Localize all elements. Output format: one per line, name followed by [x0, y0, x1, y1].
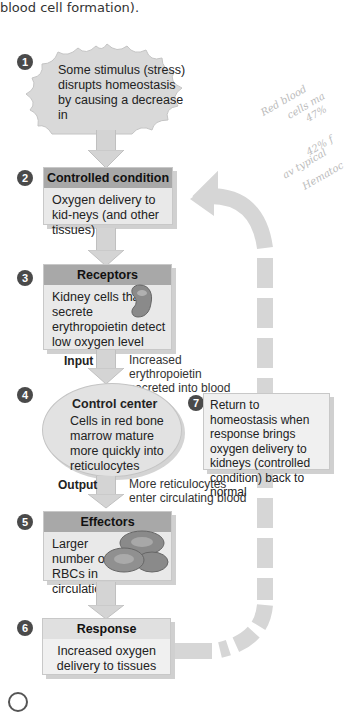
controlled-condition-title: Controlled condition	[44, 168, 172, 188]
receptors-title: Receptors	[44, 265, 171, 285]
response-title: Response	[43, 619, 170, 639]
arrow-down	[96, 582, 116, 606]
output-description: More reticulocytes enter circulating blo…	[129, 477, 249, 505]
response-text: Increased oxygen delivery to tissues	[43, 639, 170, 679]
input-arrow	[96, 350, 116, 370]
step-6-badge: 6	[17, 620, 33, 636]
return-homeostasis-box: Return to homeostasis when response brin…	[203, 393, 330, 470]
next-badge-partial	[8, 692, 28, 712]
kidney-icon	[128, 283, 154, 319]
control-center-title: Control center	[72, 397, 157, 411]
arrow-down	[96, 228, 116, 250]
arrow-down	[96, 130, 116, 150]
output-label: Output	[58, 478, 97, 492]
step-7-badge: 7	[188, 395, 204, 411]
arrow-head	[88, 494, 124, 510]
step-5-badge: 5	[17, 514, 33, 530]
input-label: Input	[64, 354, 93, 368]
controlled-condition-box: Controlled condition Oxygen delivery to …	[43, 167, 173, 225]
output-arrow	[96, 476, 116, 496]
response-box: Response Increased oxygen delivery to ti…	[42, 618, 171, 675]
step-2-badge: 2	[17, 170, 33, 186]
step-1-text: Some stimulus (stress) disrupts homeosta…	[58, 63, 188, 123]
red-blood-cells-icon	[100, 528, 170, 576]
control-center-text: Cells in red bone marrow mature more qui…	[70, 414, 170, 474]
step-4-badge: 4	[17, 387, 33, 403]
step-3-badge: 3	[17, 270, 33, 286]
